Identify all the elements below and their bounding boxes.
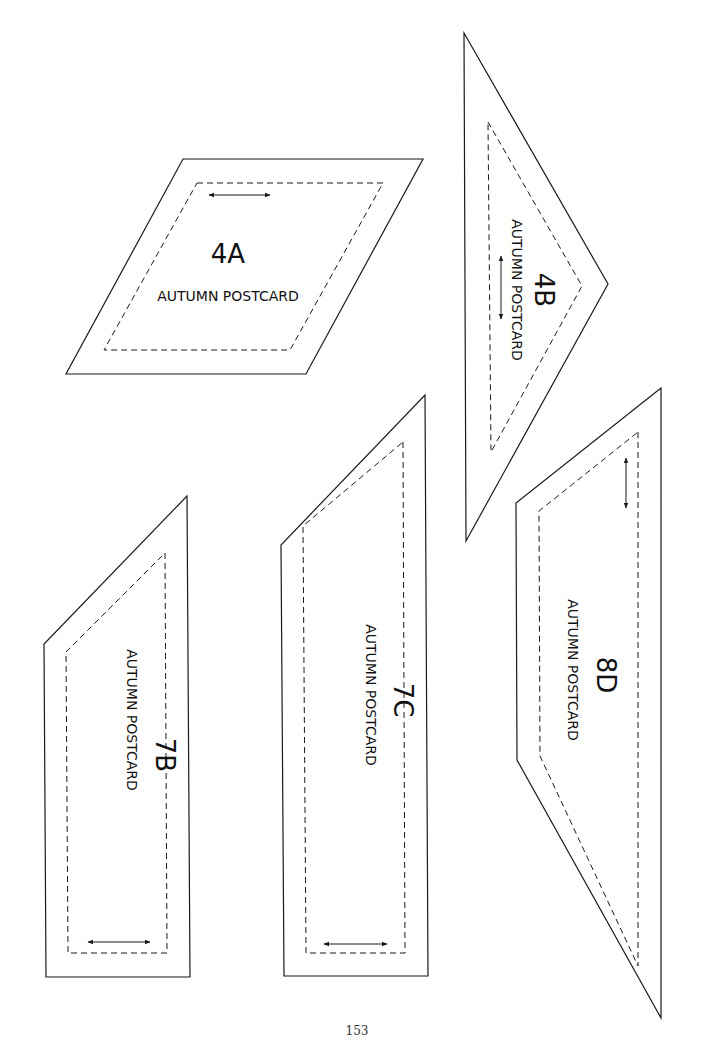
piece-8D: 8D AUTUMN POSTCARD [516, 388, 661, 1018]
cut-line [516, 388, 661, 1018]
piece-code: 7B [150, 738, 180, 772]
sew-line [539, 432, 638, 966]
piece-code: 4A [211, 239, 246, 269]
piece-name: AUTUMN POSTCARD [509, 219, 525, 361]
piece-code: 8D [591, 657, 621, 694]
piece-name: AUTUMN POSTCARD [157, 288, 299, 304]
piece-name: AUTUMN POSTCARD [565, 599, 581, 741]
piece-4A: 4A AUTUMN POSTCARD [66, 159, 423, 374]
cut-line [44, 496, 190, 977]
page-number: 153 [0, 1024, 714, 1038]
piece-code: 4B [529, 273, 559, 307]
piece-name: AUTUMN POSTCARD [363, 624, 379, 766]
piece-4B: 4B AUTUMN POSTCARD [464, 33, 608, 541]
template-sheet: 4A AUTUMN POSTCARD 4B AUTUMN POSTCARD 7B… [0, 0, 714, 1053]
piece-7B: 7B AUTUMN POSTCARD [44, 496, 190, 977]
piece-name: AUTUMN POSTCARD [124, 649, 140, 791]
piece-code: 7C [388, 683, 418, 718]
piece-7C: 7C AUTUMN POSTCARD [281, 395, 428, 976]
